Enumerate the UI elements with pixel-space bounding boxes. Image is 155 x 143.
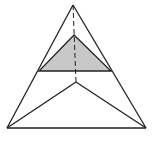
edge-right-inner [76,82,146,128]
edge-left-inner [7,82,76,128]
pyramid-diagram [0,0,155,143]
